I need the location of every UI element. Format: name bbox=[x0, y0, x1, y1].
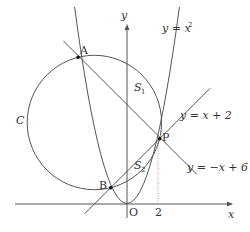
svg-text:y = x: y = x bbox=[161, 22, 191, 35]
line-y-x-plus-2 bbox=[85, 88, 210, 214]
origin-label: O bbox=[129, 206, 138, 219]
point-b-label: B bbox=[99, 179, 107, 192]
point-a-label: A bbox=[79, 44, 89, 57]
line2-label: y = −x + 6 bbox=[186, 161, 248, 174]
point-b-marker bbox=[109, 186, 113, 190]
line-y-neg-x-plus-6 bbox=[63, 41, 197, 175]
y-axis-label: y bbox=[120, 9, 128, 22]
y-axis-arrow-icon bbox=[125, 24, 130, 30]
svg-text:2: 2 bbox=[141, 166, 145, 174]
region-s1-label: S 1 bbox=[134, 81, 145, 96]
x-axis-label: x bbox=[228, 208, 235, 221]
circle-c-label: C bbox=[16, 114, 25, 127]
point-p-marker bbox=[158, 137, 162, 141]
svg-text:2: 2 bbox=[188, 21, 192, 29]
point-p-label: P bbox=[162, 131, 170, 144]
svg-text:1: 1 bbox=[141, 88, 145, 96]
line1-label: y = x + 2 bbox=[179, 109, 232, 122]
x-axis-arrow-icon bbox=[227, 202, 233, 207]
region-s2-label: S 2 bbox=[134, 159, 145, 174]
x-tick-label-2: 2 bbox=[155, 206, 162, 219]
diagram-canvas: A B P y x O 2 C y = x 2 y = x + 2 y = −x… bbox=[0, 0, 250, 232]
parabola-label: y = x 2 bbox=[161, 21, 192, 35]
